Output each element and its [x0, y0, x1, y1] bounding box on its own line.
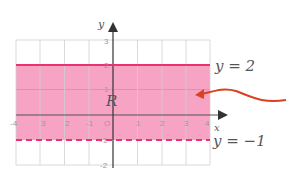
x-tick-neg2: 2	[65, 119, 70, 128]
y-tick-neg1: -1	[100, 136, 108, 145]
region-label-r: R	[105, 92, 117, 110]
x-tick-neg4: -4	[10, 119, 18, 128]
x-tick-3: 3	[184, 119, 189, 128]
y-axis-arrow-icon	[108, 22, 118, 32]
y-axis-label: y	[97, 18, 105, 31]
y-tick-2: 2	[104, 61, 109, 70]
x-tick-1: 1	[136, 119, 141, 128]
origin-label: O	[104, 119, 110, 128]
label-y-equals-neg1: y = −1	[212, 132, 266, 150]
x-axis-arrow-icon	[218, 110, 228, 120]
y-tick-3: 3	[104, 37, 109, 46]
x-tick-4: 4	[205, 119, 210, 128]
x-tick-2: 2	[160, 119, 165, 128]
label-y-equals-2: y = 2	[214, 57, 255, 75]
x-tick-neg1: -1	[86, 119, 94, 128]
pointer-arrow	[202, 89, 286, 101]
y-tick-neg2: -2	[100, 161, 108, 170]
x-tick-neg3: 3	[41, 119, 46, 128]
coordinate-plane: y x 3 2 1 -1 -2 -4 3 2 -1 O 1 2 3 4 R y …	[0, 0, 286, 175]
